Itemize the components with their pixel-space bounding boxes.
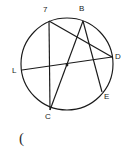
vertex-label-e: E xyxy=(104,93,109,101)
geometry-figure: 7 B D E C L ( xyxy=(0,0,136,153)
caption-paren: ( xyxy=(19,131,24,146)
center-intersection-dot xyxy=(66,64,69,67)
vertex-label-d: D xyxy=(115,53,121,61)
vertex-label-a: 7 xyxy=(43,6,47,14)
vertex-label-c: C xyxy=(45,113,51,121)
vertex-label-l: L xyxy=(12,67,16,75)
vertex-label-b: B xyxy=(79,5,84,13)
